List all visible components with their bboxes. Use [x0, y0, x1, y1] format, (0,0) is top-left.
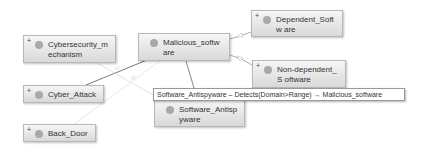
node-label: Cybersecurity_m echanism	[48, 40, 111, 60]
class-circle-icon	[150, 39, 158, 47]
edge-malicious-to-nondependent	[230, 55, 252, 65]
edge-tooltip: Software_Antispyware – Detects(Domain>Ra…	[153, 88, 405, 101]
expand-icon[interactable]: +	[26, 88, 32, 94]
edge-malicious-to-dependent	[230, 32, 251, 39]
node-label: Dependent_Softw are	[276, 15, 338, 35]
node-cybersecurity-mechanism[interactable]: + Cybersecurity_m echanism	[23, 35, 116, 63]
expand-icon[interactable]: +	[26, 38, 32, 44]
node-label: Back_Door	[48, 129, 91, 139]
edge-cybersecurity-to-antispyware	[97, 63, 160, 99]
class-circle-icon	[166, 106, 174, 114]
node-label: Software_Antisp yware	[179, 105, 240, 125]
class-circle-icon	[263, 16, 271, 24]
node-software-antispyware[interactable]: Software_Antisp yware	[154, 99, 245, 127]
node-cyber-attack[interactable]: + Cyber_Attack	[23, 85, 104, 103]
class-circle-icon	[35, 41, 43, 49]
class-circle-icon	[35, 130, 43, 138]
expand-icon[interactable]: +	[255, 63, 261, 69]
node-non-dependent-software[interactable]: + Non-dependent_S oftware	[252, 60, 346, 88]
node-back-door[interactable]: + Back_Door	[23, 124, 96, 142]
node-dependent-software[interactable]: + Dependent_Softw are	[251, 10, 343, 37]
class-circle-icon	[35, 91, 43, 99]
ontology-graph-canvas[interactable]: + Cybersecurity_m echanism Malicious_sof…	[0, 0, 426, 154]
node-label: Non-dependent_S oftware	[277, 65, 341, 85]
expand-icon[interactable]: +	[26, 127, 32, 133]
node-label: Malicious_softw are	[163, 38, 225, 58]
node-label: Cyber_Attack	[48, 90, 99, 100]
edge-malicious-to-cyber-attack	[86, 60, 147, 85]
node-malicious-software[interactable]: Malicious_softw are	[138, 33, 230, 61]
edge-malicious-to-antispyware	[186, 61, 194, 88]
class-circle-icon	[264, 66, 272, 74]
expand-icon[interactable]: +	[254, 13, 260, 19]
